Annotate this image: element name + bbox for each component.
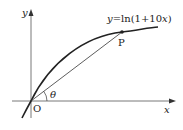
y-axis-arrow-icon bbox=[29, 9, 34, 16]
curve bbox=[22, 27, 158, 118]
y-axis-label: y bbox=[21, 7, 28, 18]
origin-label: O bbox=[33, 103, 41, 114]
angle-arc bbox=[44, 91, 47, 101]
function-graph: y=ln(1+10x) P O θ x y bbox=[0, 0, 183, 130]
point-label: P bbox=[118, 37, 125, 48]
angle-label: θ bbox=[50, 89, 56, 100]
curve-label: y=ln(1+10x) bbox=[106, 13, 172, 24]
point-p bbox=[120, 30, 124, 34]
x-axis-arrow-icon bbox=[169, 99, 176, 104]
chord-op bbox=[31, 32, 122, 101]
x-axis-label: x bbox=[164, 104, 170, 115]
